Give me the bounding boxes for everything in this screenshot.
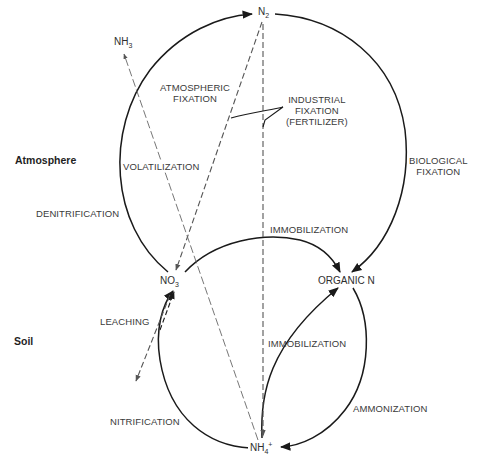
leaching-line — [136, 295, 170, 381]
nitrification-label: NITRIFICATION — [110, 416, 180, 427]
atmospheric-fixation-line-1: ATMOSPHERIC — [160, 82, 230, 93]
no3-sub: 3 — [175, 281, 179, 288]
nh3-sub: 3 — [128, 42, 132, 49]
immobilization-lower-label: IMMOBILIZATION — [268, 338, 346, 349]
nh4-base: NH — [250, 442, 264, 453]
immobilization-upper-label: IMMOBILIZATION — [270, 224, 348, 235]
biological-fixation-label: BIOLOGICAL FIXATION — [409, 155, 468, 177]
nh3-base: NH — [114, 36, 128, 47]
nh4-sub: 4 — [264, 448, 268, 455]
biological-fixation-line-2: FIXATION — [409, 166, 468, 177]
no3-base: NO — [160, 275, 175, 286]
biological-fixation-line-1: BIOLOGICAL — [409, 155, 468, 166]
industrial-fixation-line-3: (FERTILIZER) — [286, 116, 348, 127]
nitrogen-cycle-diagram: Atmosphere Soil N2 NH3 NO3 ORGANIC N NH4… — [0, 0, 485, 466]
organic-n-node: ORGANIC N — [317, 275, 376, 286]
ammonization-label: AMMONIZATION — [353, 403, 427, 414]
nh4-sup: + — [268, 441, 272, 448]
denitrification-label: DENITRIFICATION — [36, 208, 119, 219]
n2-sub: 2 — [265, 12, 269, 19]
atmospheric-fixation-label: ATMOSPHERIC FIXATION — [160, 82, 230, 104]
atmospheric-fixation-line — [176, 22, 262, 270]
diagram-canvas — [0, 0, 485, 466]
immobilization-lower-arc — [262, 288, 338, 438]
n2-node: N2 — [256, 6, 271, 19]
industrial-fixation-pointer — [231, 107, 283, 127]
volatilization-label: VOLATILIZATION — [123, 161, 200, 172]
nh4-node: NH4+ — [248, 441, 274, 455]
soil-label: Soil — [14, 335, 33, 347]
nh3-node: NH3 — [114, 36, 132, 49]
industrial-fixation-label: INDUSTRIAL FIXATION (FERTILIZER) — [286, 94, 348, 127]
industrial-fixation-line-1: INDUSTRIAL — [286, 94, 348, 105]
atmospheric-fixation-line-2: FIXATION — [160, 93, 230, 104]
atmosphere-label: Atmosphere — [15, 154, 76, 166]
denitrification-arc — [120, 14, 252, 272]
no3-node: NO3 — [160, 275, 179, 288]
leaching-label: LEACHING — [100, 316, 149, 327]
industrial-fixation-line-2: FIXATION — [286, 105, 348, 116]
ammonization-arc — [281, 288, 366, 447]
